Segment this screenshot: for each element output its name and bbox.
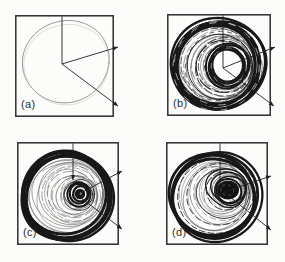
panel-d: (d) (166, 142, 275, 245)
panel-label-b: (b) (173, 98, 187, 109)
panel-a: (a) (15, 15, 121, 117)
panel-label-d: (d) (172, 227, 186, 238)
panel-b: (b) (167, 14, 278, 116)
panel-label-a: (a) (21, 99, 35, 110)
panel-label-c: (c) (23, 227, 37, 238)
panel-c: (c) (17, 142, 126, 245)
figure-four-phase-portraits: (a) (b) (c) (d) (0, 0, 285, 262)
